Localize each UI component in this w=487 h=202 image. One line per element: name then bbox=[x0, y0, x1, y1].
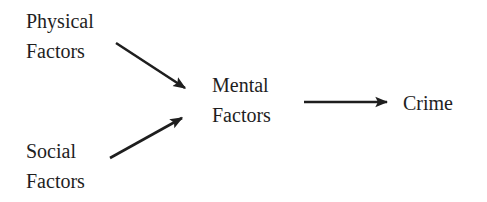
arrows-layer bbox=[0, 0, 487, 202]
causal-diagram: Physical Factors Social Factors Mental F… bbox=[0, 0, 487, 202]
arrow-social-to-mental bbox=[110, 118, 182, 158]
arrow-physical-to-mental bbox=[116, 43, 185, 88]
